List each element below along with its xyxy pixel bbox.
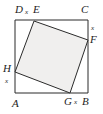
vertex-label-a: A	[12, 98, 19, 109]
vertex-label-h: H	[3, 63, 11, 74]
vertex-label-f: F	[90, 34, 97, 45]
segment-label-x-bg: x	[74, 99, 77, 106]
vertex-label-b: B	[82, 96, 89, 107]
vertex-label-e: E	[33, 4, 40, 15]
vertex-label-g: G	[64, 96, 72, 107]
vertex-label-d: D	[15, 4, 23, 15]
vertex-label-c: C	[81, 4, 88, 15]
segment-label-x-de: x	[25, 9, 28, 16]
segment-label-x-ah: x	[5, 78, 8, 85]
segment-label-x-cf: x	[91, 25, 94, 32]
geometry-figure: D x E C x F H x A G x B	[0, 0, 103, 114]
